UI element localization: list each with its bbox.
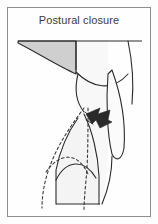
right-outer-contour xyxy=(128,41,133,104)
right-narrow-limb xyxy=(107,70,124,159)
shaded-wedge xyxy=(18,41,76,74)
postural-closure-figure-panel: Postural closure xyxy=(0,0,158,224)
figure-drawing-canvas xyxy=(8,8,150,216)
